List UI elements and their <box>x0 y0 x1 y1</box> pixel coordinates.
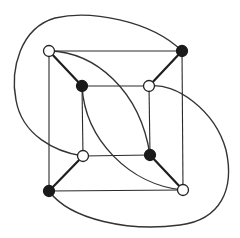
inner-square <box>82 86 150 156</box>
vertex-inner-br <box>145 150 156 161</box>
edge-inner-right <box>149 86 150 155</box>
spokes <box>49 51 183 191</box>
spoke-bl <box>49 156 83 191</box>
vertex-outer-br <box>178 185 189 196</box>
spoke-tr <box>149 51 182 86</box>
vertex-inner-bl <box>78 151 89 162</box>
vertex-outer-tl <box>44 46 55 57</box>
curve-inner-tr-outer-bl <box>49 86 229 227</box>
vertex-outer-bl <box>44 186 55 197</box>
edge-outer-bottom <box>49 190 183 191</box>
spoke-br <box>150 155 183 190</box>
edge-inner-bottom <box>83 155 150 156</box>
vertex-outer-tr <box>177 46 188 57</box>
edge-outer-right <box>182 51 183 190</box>
vertex-inner-tl <box>77 81 88 92</box>
vertex-inner-tr <box>144 81 155 92</box>
graph-diagram <box>0 0 240 238</box>
